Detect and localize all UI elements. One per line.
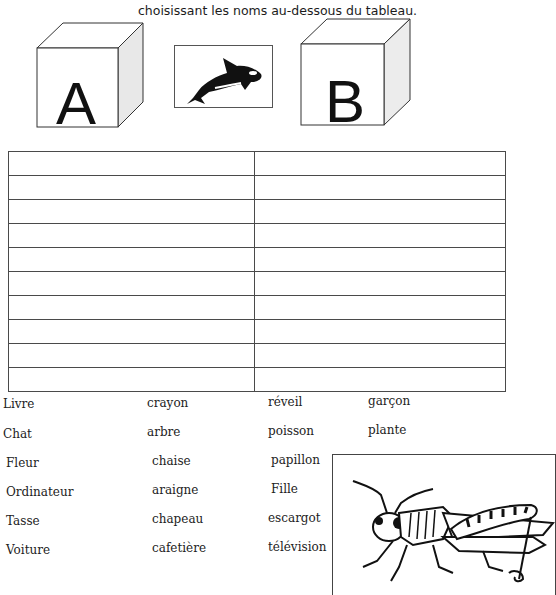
cell-a[interactable] (9, 320, 255, 344)
word-item: cafetière (152, 541, 206, 555)
cell-a[interactable] (9, 152, 255, 176)
table-row (9, 152, 506, 176)
cube-b: B (300, 18, 412, 128)
table-row (9, 176, 506, 200)
word-item: chapeau (152, 512, 203, 526)
word-item: crayon (147, 396, 188, 410)
word-item: arbre (147, 425, 180, 439)
cube-b-letter: B (325, 72, 365, 132)
cell-a[interactable] (9, 224, 255, 248)
table-row (9, 320, 506, 344)
cell-b[interactable] (255, 272, 506, 296)
word-item: réveil (268, 395, 302, 409)
word-item: Tasse (6, 514, 40, 528)
word-item: télévision (268, 540, 326, 554)
orca-picture (174, 45, 273, 108)
cell-b[interactable] (255, 248, 506, 272)
cell-b[interactable] (255, 344, 506, 368)
sorting-table (8, 151, 506, 392)
cell-a[interactable] (9, 344, 255, 368)
cell-b[interactable] (255, 200, 506, 224)
cell-a[interactable] (9, 368, 255, 392)
cell-a[interactable] (9, 176, 255, 200)
grasshopper-picture (332, 454, 556, 595)
table-row (9, 368, 506, 392)
cell-b[interactable] (255, 152, 506, 176)
word-item: araigne (152, 483, 198, 497)
cell-b[interactable] (255, 320, 506, 344)
word-item: garçon (368, 394, 410, 408)
word-item: Livre (3, 397, 34, 411)
cell-a[interactable] (9, 272, 255, 296)
cell-a[interactable] (9, 248, 255, 272)
word-item: Fille (271, 482, 298, 496)
orca-icon (175, 46, 272, 107)
word-item: Voiture (6, 543, 50, 557)
grasshopper-icon (333, 455, 555, 589)
table-row (9, 248, 506, 272)
table-row (9, 344, 506, 368)
table-row (9, 272, 506, 296)
table-row (9, 200, 506, 224)
word-item: escargot (268, 511, 321, 525)
instruction-text: choisissant les noms au-dessous du table… (0, 3, 555, 18)
cube-a-letter: A (56, 74, 96, 134)
cell-a[interactable] (9, 200, 255, 224)
word-item: papillon (271, 453, 320, 467)
cell-b[interactable] (255, 296, 506, 320)
word-item: Fleur (6, 456, 39, 470)
cell-a[interactable] (9, 296, 255, 320)
table-row (9, 224, 506, 248)
word-item: chaise (152, 454, 191, 468)
cell-b[interactable] (255, 224, 506, 248)
table-row (9, 296, 506, 320)
word-item: Chat (3, 427, 32, 441)
word-item: plante (368, 423, 406, 437)
cell-b[interactable] (255, 368, 506, 392)
word-item: poisson (268, 424, 314, 438)
cube-a: A (36, 22, 146, 130)
word-item: Ordinateur (6, 485, 73, 499)
cell-b[interactable] (255, 176, 506, 200)
